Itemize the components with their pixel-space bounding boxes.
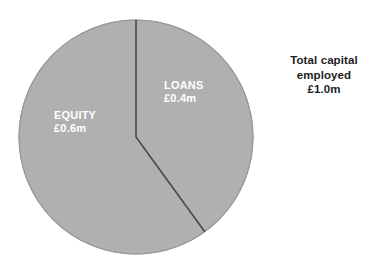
total-capital-line-1: Total capital — [276, 53, 372, 68]
total-capital-value: £1.0m — [276, 82, 372, 97]
pie-slice-label-loans-value: £0.4m — [164, 92, 204, 105]
pie-slice-label-loans: LOANS £0.4m — [164, 79, 204, 105]
pie-slice-label-equity-name: EQUITY — [54, 109, 96, 122]
pie-slice-label-equity-value: £0.6m — [54, 122, 96, 135]
pie-slice-label-loans-name: LOANS — [164, 79, 204, 92]
pie-chart-graphic — [0, 0, 378, 270]
pie-slice-label-equity: EQUITY £0.6m — [54, 109, 96, 135]
total-capital-line-2: employed — [276, 68, 372, 83]
pie-chart-figure: LOANS £0.4m EQUITY £0.6m Total capital e… — [0, 0, 378, 270]
total-capital-annotation: Total capital employed £1.0m — [276, 53, 372, 97]
